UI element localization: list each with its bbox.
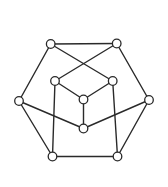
petersen-graph-diagram [0, 0, 168, 187]
edge-tl-ir [51, 44, 113, 81]
node-lc [79, 124, 88, 133]
graph-nodes [15, 39, 154, 161]
edge-tl-tr [51, 44, 117, 45]
edge-l-lc [19, 101, 84, 129]
edge-tr-il [55, 44, 117, 82]
node-tl [46, 40, 55, 49]
edge-il-c [55, 81, 84, 100]
edge-ir-br [113, 81, 118, 157]
edge-tr-r [117, 44, 149, 101]
edge-il-bl [53, 81, 56, 157]
node-tr [112, 39, 121, 48]
edge-r-lc [84, 100, 150, 129]
edge-r-br [118, 100, 150, 157]
node-br [113, 152, 122, 161]
node-ir [108, 77, 117, 86]
edge-tl-l [19, 44, 51, 101]
node-l [15, 97, 24, 106]
node-r [145, 96, 154, 105]
node-bl [48, 152, 57, 161]
edge-ir-c [84, 81, 113, 100]
node-il [51, 77, 60, 86]
edge-l-bl [19, 101, 53, 157]
node-c [79, 95, 88, 104]
